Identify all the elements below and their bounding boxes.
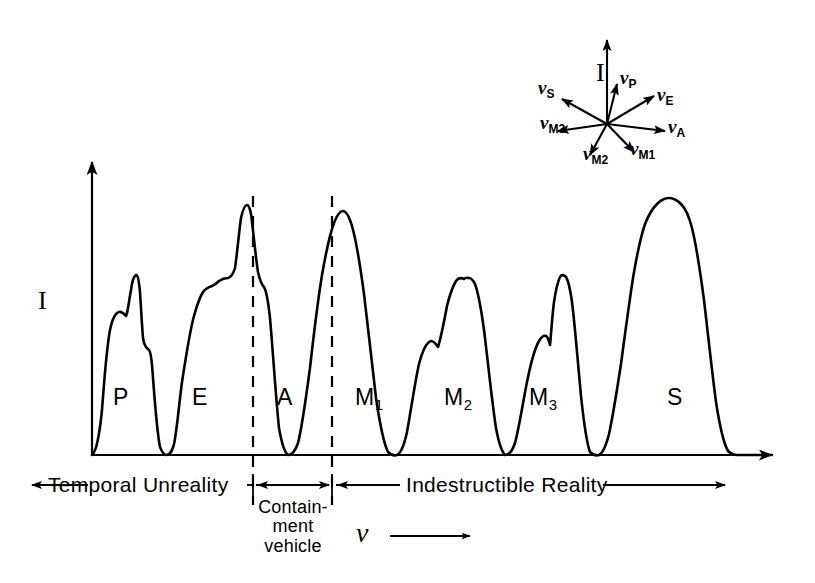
spectrum-trace [92, 198, 772, 455]
vector-label-nuM3-sub-n: 3 [558, 122, 565, 136]
peak-label-E: E [192, 386, 208, 409]
figure-root: I ν P E A M1 M2 M3 S Temporal Unreality … [0, 0, 815, 583]
vector-label-nuM3: νM3 [540, 113, 565, 132]
vector-label-nuM2: νM2 [583, 144, 608, 163]
vector-label-nuM2-sub-m: M [591, 153, 601, 167]
containment-vehicle-arrow [256, 474, 332, 496]
vector-ray-nuE [607, 96, 654, 124]
region-label-indestructible-reality: Indestructible Reality [406, 474, 608, 495]
vector-label-nuM1-sub-n: 1 [648, 148, 655, 162]
vector-label-nuM1-sub: M1 [638, 148, 655, 162]
region-label-containment-vehicle: Contain- ment vehicle [257, 498, 329, 556]
vector-label-nuM3-sub: M3 [548, 122, 565, 136]
vector-label-nuE-sub: E [665, 94, 673, 108]
peak-label-M2-sub: 2 [464, 396, 473, 413]
peak-label-M1-sub: 1 [375, 396, 384, 413]
vector-ray-nuA [607, 124, 665, 131]
vector-label-nuP-sub: P [628, 77, 636, 91]
vector-label-nuP: νP [620, 68, 636, 87]
vector-label-nuE: νE [657, 85, 673, 104]
vector-label-nuM3-sub-m: M [548, 122, 558, 136]
containment-line-3: vehicle [257, 537, 329, 556]
vector-label-nuM1-sub-m: M [638, 148, 648, 162]
vector-ray-nuM3 [558, 124, 607, 131]
peak-label-M1: M1 [355, 386, 384, 409]
containment-line-2: ment [257, 517, 329, 536]
peak-label-M3: M3 [529, 386, 558, 409]
region-label-temporal-unreality: Temporal Unreality [48, 474, 228, 495]
vector-label-nuM1: νM1 [630, 139, 655, 158]
vector-rays [558, 40, 665, 155]
vector-label-nuS-sub: S [546, 87, 554, 101]
peak-label-M2: M2 [444, 386, 473, 409]
vector-label-nuA: νA [668, 117, 685, 136]
peak-label-M3-sub: 3 [549, 396, 558, 413]
peak-label-A: A [277, 386, 293, 409]
vector-ray-nuS [562, 99, 607, 124]
vector-label-nuS: νS [538, 78, 554, 97]
peak-label-M1-base: M [355, 384, 375, 410]
vector-label-nuM2-sub-n: 2 [601, 153, 608, 167]
containment-line-1: Contain- [257, 498, 329, 517]
peak-label-S: S [667, 386, 683, 409]
peak-label-P: P [113, 386, 129, 409]
peak-label-M3-base: M [529, 384, 549, 410]
x-axis-label: ν [356, 519, 368, 547]
vector-label-nuM2-sub: M2 [591, 153, 608, 167]
vector-ray-nuP [607, 84, 617, 124]
peak-label-M2-base: M [444, 384, 464, 410]
vector-label-nuA-sub: A [676, 126, 685, 140]
vector-label-I: I [596, 60, 605, 86]
y-axis-label: I [38, 288, 47, 314]
